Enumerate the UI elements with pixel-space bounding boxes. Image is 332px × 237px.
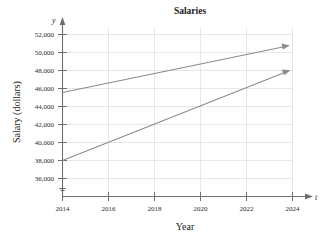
y-tick-label-42000: 42,000 [35,121,55,129]
x-axis-title: Year [176,221,195,232]
x-tick-label-2024: 2024 [286,205,301,213]
data-series-line-1 [63,44,291,93]
y-tick-label-48000: 48,000 [35,67,55,75]
x-axis-variable-label: t [315,193,318,202]
data-series-line-2 [63,70,291,161]
horizontal-gridlines [62,35,293,179]
x-tick-label-2018: 2018 [148,205,163,213]
vertical-gridlines [63,28,293,196]
x-axis: t [63,193,319,202]
y-tick-label-52000: 52,000 [35,31,55,39]
x-tick-label-2014: 2014 [56,205,71,213]
x-tick-label-2020: 2020 [194,205,209,213]
series-1-arrow-icon [282,44,290,50]
y-tick-label-50000: 50,000 [35,49,55,57]
y-tick-label-46000: 46,000 [35,85,55,93]
chart-screenshot: Salaries y [0,0,332,237]
y-axis-title: Salary (dollars) [11,81,23,143]
chart-title: Salaries [174,6,206,16]
y-tick-label-38000: 38,000 [35,157,55,165]
y-tick-label-36000: 36,000 [35,175,55,183]
y-tick-labels: 36,000 38,000 40,000 42,000 44,000 46,00… [35,31,55,183]
x-tick-labels: 2014 2016 2018 2020 2022 2024 [56,205,301,213]
y-axis-arrow-icon [60,17,66,25]
y-axis-variable-label: y [51,16,56,25]
x-tick-label-2022: 2022 [240,205,255,213]
y-tick-label-44000: 44,000 [35,103,55,111]
series-2-arrow-icon [282,70,291,76]
salaries-line-chart: Salaries y [0,0,332,237]
y-tick-label-40000: 40,000 [35,139,55,147]
x-tick-label-2016: 2016 [102,205,117,213]
x-axis-arrow-icon [305,194,313,200]
